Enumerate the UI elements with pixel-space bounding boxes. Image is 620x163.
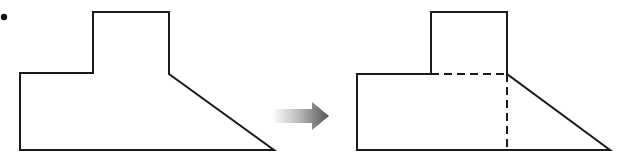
decomposition-diagram xyxy=(0,0,620,163)
transform-arrow-icon xyxy=(272,102,329,130)
decomposed-outline xyxy=(357,12,610,150)
original-composite-shape xyxy=(20,12,274,150)
decomposed-composite-shape xyxy=(357,12,610,150)
bullet-point xyxy=(1,14,7,20)
